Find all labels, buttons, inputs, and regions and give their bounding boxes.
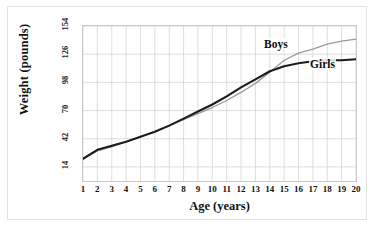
- y-tick-label: 98: [60, 65, 70, 95]
- y-tick-label: 154: [60, 9, 70, 39]
- chart-figure: Weight (pounds) 14427098126154 123456789…: [0, 0, 375, 229]
- series-label-boys: Boys: [263, 38, 289, 50]
- x-axis-title: Age (years): [82, 199, 357, 214]
- y-tick-label: 42: [60, 122, 70, 152]
- x-tick-label: 20: [345, 184, 367, 194]
- y-tick-label: 126: [60, 37, 70, 67]
- y-tick-label: 70: [60, 94, 70, 124]
- y-tick-label: 14: [60, 150, 70, 180]
- y-axis-title: Weight (pounds): [17, 10, 32, 130]
- plot-area: [82, 25, 357, 182]
- series-lines: [83, 26, 356, 181]
- series-line-girls: [83, 59, 356, 159]
- series-label-girls: Girls: [309, 58, 336, 70]
